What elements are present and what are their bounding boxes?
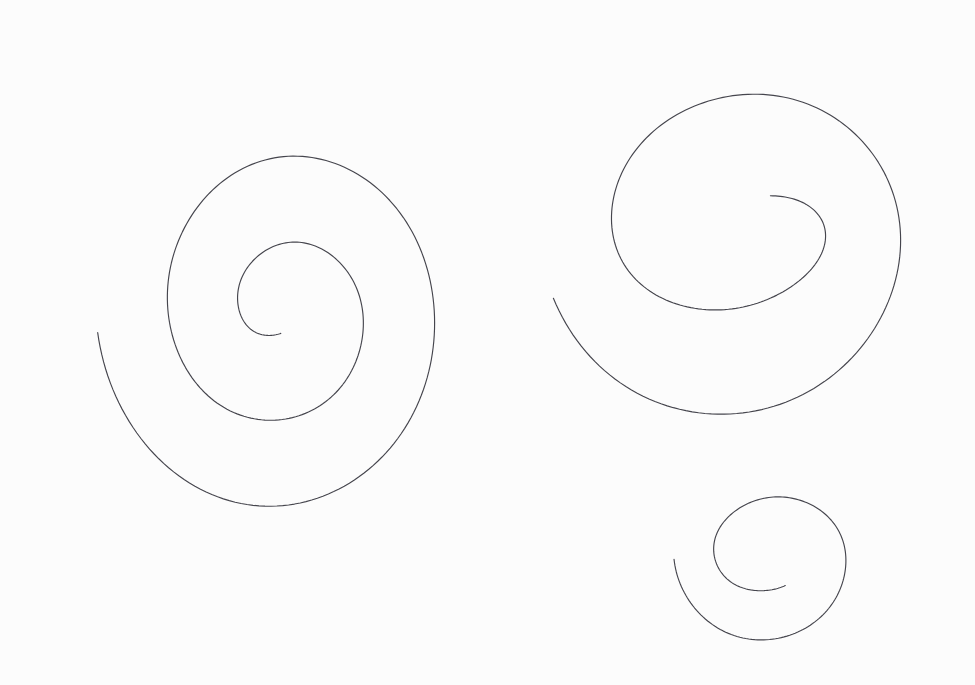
paper-sheet: [0, 0, 975, 685]
drawing-canvas: [0, 0, 975, 685]
paper-background: [0, 0, 975, 685]
